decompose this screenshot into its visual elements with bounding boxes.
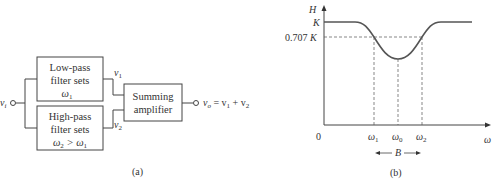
caption-a: (a) bbox=[132, 166, 143, 178]
tick-0707K: 0.707 K bbox=[285, 32, 318, 43]
tick-K: K bbox=[312, 17, 321, 28]
highpass-label-3: ω2 > ω1 bbox=[53, 137, 88, 150]
diagram-canvas: vi Low-pass filter sets ω1 High-pass fil… bbox=[0, 0, 499, 181]
bandwidth-right-arrow-icon bbox=[416, 151, 421, 155]
omega1-label: ω1 bbox=[368, 131, 379, 144]
response-curve bbox=[324, 22, 472, 59]
summing-amplifier-box bbox=[124, 84, 182, 121]
lowpass-label-1: Low-pass bbox=[50, 62, 91, 73]
bandwidth-left-arrow-icon bbox=[375, 151, 380, 155]
output-equation: vo = v1 + v2 bbox=[203, 97, 250, 110]
summer-label-1: Summing bbox=[133, 91, 175, 102]
lowpass-label-3: ω1 bbox=[62, 88, 73, 101]
highpass-label-1: High-pass bbox=[49, 111, 92, 122]
x-axis-label: ω bbox=[484, 134, 491, 145]
input-label: vi bbox=[0, 97, 6, 110]
output-node bbox=[194, 101, 199, 106]
y-axis-label: H bbox=[308, 4, 317, 15]
frequency-response-chart bbox=[322, 5, 492, 128]
input-node bbox=[11, 101, 16, 106]
v2-label: v2 bbox=[114, 119, 122, 132]
y-axis-arrow-icon bbox=[322, 5, 327, 11]
omega0-label: ω0 bbox=[392, 131, 403, 144]
bandwidth-label: B bbox=[395, 147, 401, 158]
v1-label: v1 bbox=[114, 67, 122, 80]
lowpass-label-2: filter sets bbox=[51, 75, 90, 86]
x-axis-arrow-icon bbox=[485, 123, 491, 128]
caption-b: (b) bbox=[390, 167, 402, 179]
origin-label: 0 bbox=[316, 131, 321, 142]
omega2-label: ω2 bbox=[416, 131, 427, 144]
highpass-label-2: filter sets bbox=[51, 124, 90, 135]
summer-label-2: amplifier bbox=[134, 104, 173, 115]
